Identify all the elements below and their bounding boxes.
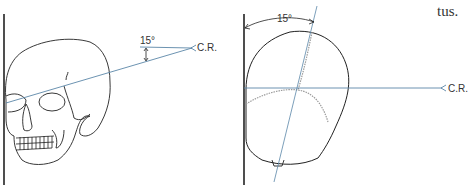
right-angle-label: 15° — [277, 13, 292, 24]
left-horizontal-reference — [140, 47, 192, 48]
left-cr-label: C.R. — [197, 42, 217, 53]
teeth — [16, 136, 54, 150]
sagittal-suture — [298, 32, 312, 90]
right-ray-arrow-icon — [441, 85, 446, 91]
page-text-fragment: tus. — [437, 3, 458, 19]
orbit-left — [6, 94, 26, 112]
coronal-suture — [246, 90, 328, 122]
mandible — [52, 130, 64, 148]
orbit-icon — [39, 93, 65, 111]
skull-top-outline — [246, 31, 349, 164]
right-cr-label: C.R. — [448, 83, 468, 94]
left-ray-arrow-icon — [191, 45, 196, 51]
right-figure: 15° C.R. — [244, 6, 468, 185]
nasal-cavity — [23, 104, 32, 131]
left-angle-label: 15° — [140, 35, 155, 46]
diagram-canvas: 15° C.R. 15° C.R. tus. — [0, 0, 468, 190]
left-figure: 15° C.R. — [4, 14, 217, 185]
skull-outline — [6, 39, 111, 164]
left-central-ray — [6, 48, 192, 103]
